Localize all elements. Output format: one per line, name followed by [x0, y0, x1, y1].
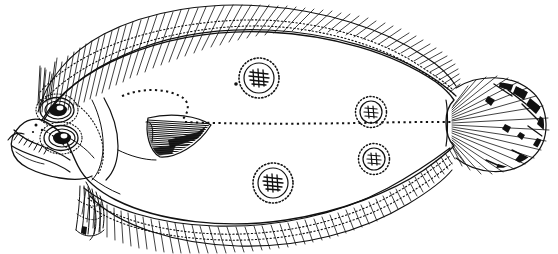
fish-illustration-svg [0, 0, 558, 254]
operculum-edge [104, 98, 118, 180]
gill-lower-edge [118, 150, 156, 160]
upper-eye-pupil [49, 104, 67, 116]
lower-eye-pupil [53, 132, 71, 144]
ocellus-3-core [263, 174, 283, 192]
pectoral-fin [146, 115, 214, 157]
ocellus-4-core [367, 153, 381, 165]
ocellus-4 [359, 144, 390, 175]
teeth [14, 134, 48, 154]
ocellus-3 [253, 163, 293, 203]
fish-illustration-figure [0, 0, 558, 254]
lower-eye [40, 122, 82, 154]
caudal-fin [452, 76, 549, 175]
upper-eye-highlight [57, 106, 64, 111]
lower-eye-highlight [61, 134, 68, 139]
lateral-line-dots [185, 122, 452, 124]
ocellus-2-core [364, 106, 378, 118]
ocellus-1-satellite-dot [234, 82, 238, 86]
lateral-line [122, 90, 452, 124]
anal-fin-rays [82, 149, 455, 253]
pelvic-fin-dark-marks [81, 226, 87, 235]
caudal-fin-rays [452, 76, 549, 174]
head [8, 62, 156, 180]
dorsal-fin [38, 5, 460, 120]
dorsal-fin-rays [39, 5, 460, 114]
ocellus-1-core [249, 69, 269, 87]
dorsal-fin-base [44, 30, 456, 120]
ink-layer [8, 5, 549, 253]
ocellus-1 [234, 58, 279, 98]
